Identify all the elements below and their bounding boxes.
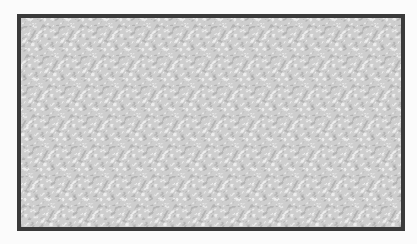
textured-image-frame	[17, 14, 405, 231]
noise-texture	[21, 18, 401, 227]
